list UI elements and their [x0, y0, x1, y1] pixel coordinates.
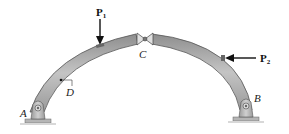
arch-segment-left [30, 34, 138, 112]
arch-segment-right [152, 34, 252, 110]
label-c: C [139, 48, 147, 60]
force-p2-label: P2 [260, 52, 271, 66]
label-b: B [254, 92, 261, 104]
hinge-c [137, 33, 153, 45]
label-d: D [65, 86, 74, 98]
label-a: A [19, 107, 27, 119]
three-hinged-arch-diagram: P1 P2 D A B C [0, 0, 289, 134]
force-p1-arrow [96, 19, 104, 48]
force-p2-arrow [221, 54, 256, 62]
force-p1-label: P1 [96, 6, 107, 20]
